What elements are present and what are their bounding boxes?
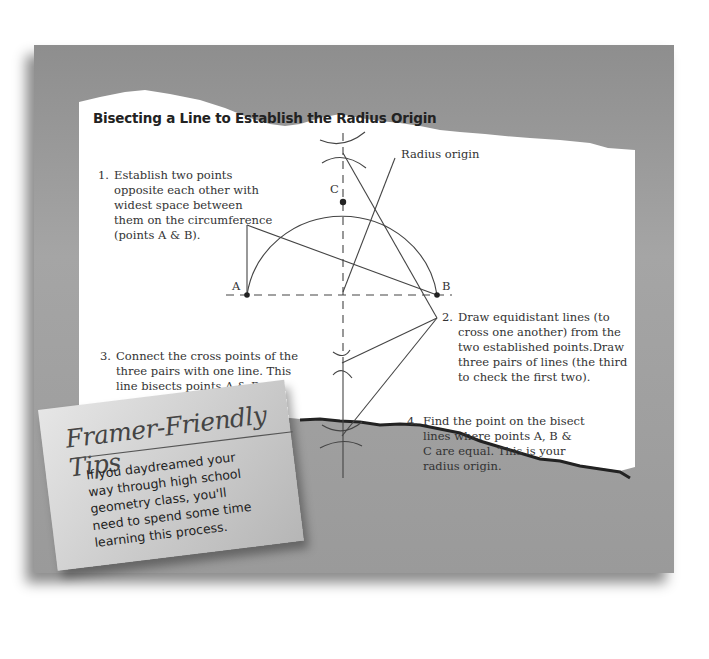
step-line: cross one another) from the — [458, 325, 627, 340]
step-line: them on the circumference — [114, 213, 272, 228]
step-line: three pairs with one line. This — [116, 364, 298, 379]
page-title: Bisecting a Line to Establish the Radius… — [93, 110, 437, 126]
step-2: 2. Draw equidistant lines (to cross one … — [458, 310, 627, 385]
step-4: 4. Find the point on the bisect lines wh… — [423, 414, 585, 474]
label-point-c: C — [330, 182, 339, 196]
step-1: 1. Establish two points opposite each ot… — [114, 168, 272, 243]
step-line: to check the first two). — [458, 370, 627, 385]
step-line: Connect the cross points of the — [116, 349, 298, 364]
step-number: 2. — [442, 310, 453, 325]
label-point-b: B — [442, 279, 450, 293]
step-line: two established points.Draw — [458, 340, 627, 355]
point-c-dot — [340, 199, 346, 205]
step-line: C are equal. This is your — [423, 444, 585, 459]
step-number: 3. — [100, 349, 111, 364]
step-line: Establish two points — [114, 168, 272, 183]
step-line: Draw equidistant lines (to — [458, 310, 627, 325]
step-line: radius origin. — [423, 459, 585, 474]
label-point-a: A — [232, 279, 240, 293]
tips-card: Framer-Friendly Tips If you daydreamed y… — [38, 381, 297, 579]
step-line: Find the point on the bisect — [423, 414, 585, 429]
step-line: three pairs of lines (the third — [458, 355, 627, 370]
step-line: lines where points A, B & — [423, 429, 585, 444]
point-b-dot — [434, 292, 440, 298]
point-a-dot — [244, 292, 250, 298]
illustration: Bisecting a Line to Establish the Radius… — [0, 0, 709, 659]
step-number: 1. — [98, 168, 109, 183]
label-radius-origin: Radius origin — [401, 147, 479, 161]
step-line: widest space between — [114, 198, 272, 213]
step-number: 4. — [407, 414, 418, 429]
step-line: opposite each other with — [114, 183, 272, 198]
step-line: (points A & B). — [114, 228, 272, 243]
